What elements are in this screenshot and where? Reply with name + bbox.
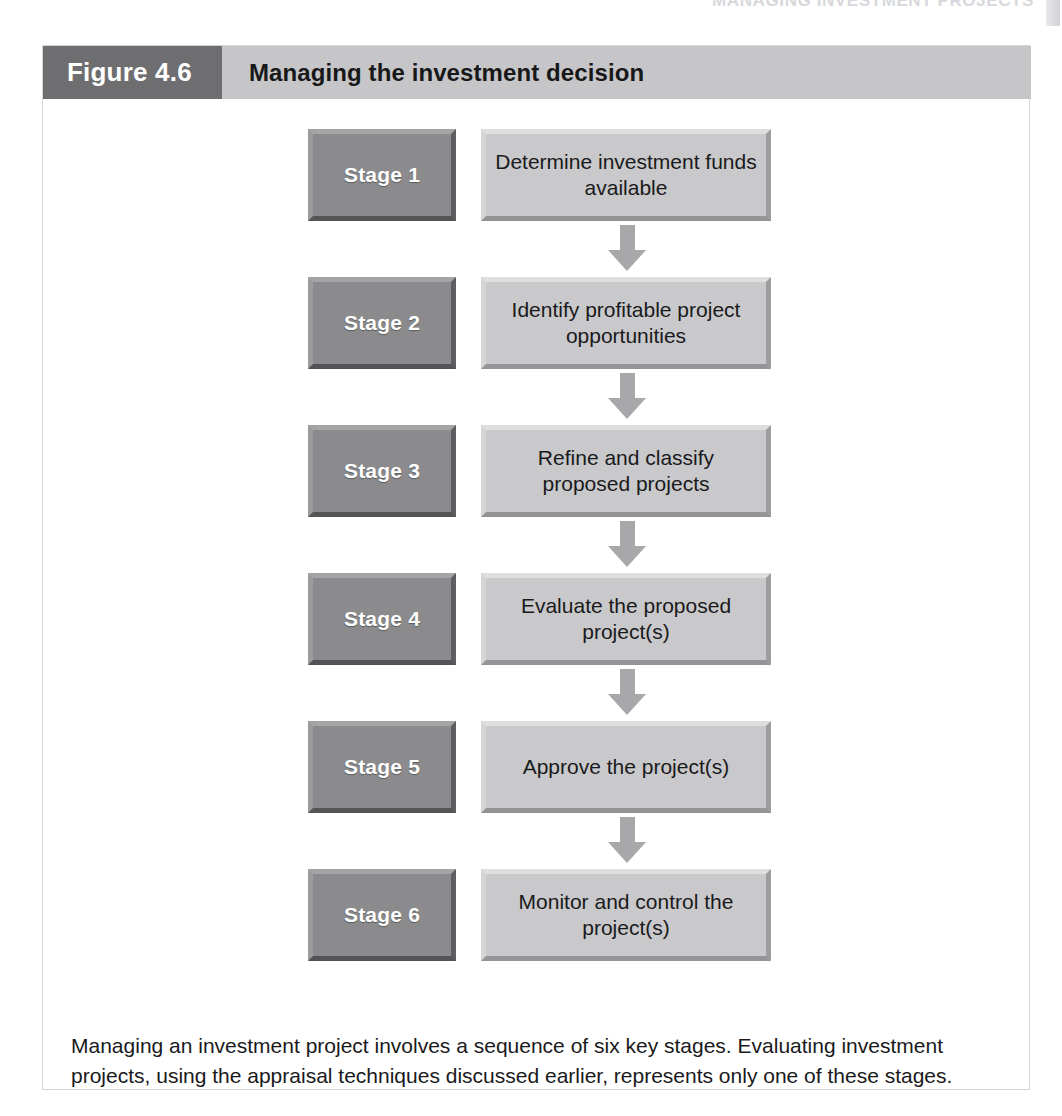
flow-arrow-icon (608, 817, 646, 863)
arrow-shaft (620, 373, 635, 400)
arrow-head (608, 250, 646, 271)
stage-label-text: Stage 2 (344, 311, 420, 335)
stage-label-text: Stage 5 (344, 755, 420, 779)
stage-label-box: Stage 1 (308, 129, 456, 221)
flow-arrow-icon (608, 521, 646, 567)
stage-label-text: Stage 4 (344, 607, 420, 631)
flow-stage-row: Stage 1 Determine investment funds avail… (43, 129, 1031, 227)
stage-label-box: Stage 6 (308, 869, 456, 961)
stage-content-box: Evaluate the proposed project(s) (481, 573, 771, 665)
stage-label-text: Stage 1 (344, 163, 420, 187)
flow-arrow-icon (608, 373, 646, 419)
stage-description-text: Refine and classify proposed projects (486, 445, 766, 496)
stage-description-text: Evaluate the proposed project(s) (486, 593, 766, 644)
arrow-head (608, 398, 646, 419)
arrow-head (608, 694, 646, 715)
stage-content-box: Refine and classify proposed projects (481, 425, 771, 517)
flow-stage-row: Stage 3 Refine and classify proposed pro… (43, 425, 1031, 523)
flow-stage-row: Stage 4 Evaluate the proposed project(s) (43, 573, 1031, 671)
flow-stage-row: Stage 6 Monitor and control the project(… (43, 869, 1031, 967)
flow-stage-row: Stage 5 Approve the project(s) (43, 721, 1031, 819)
stage-content-box: Monitor and control the project(s) (481, 869, 771, 961)
stage-description-text: Approve the project(s) (515, 754, 738, 780)
figure-title: Managing the investment decision (222, 46, 1031, 99)
stage-content-box: Approve the project(s) (481, 721, 771, 813)
stage-description-text: Determine investment funds available (486, 149, 766, 200)
flow-arrow-icon (608, 669, 646, 715)
figure-container: Figure 4.6 Managing the investment decis… (42, 45, 1030, 1090)
arrow-shaft (620, 225, 635, 252)
flow-arrow-icon (608, 225, 646, 271)
stage-label-text: Stage 6 (344, 903, 420, 927)
stage-description-text: Monitor and control the project(s) (486, 889, 766, 940)
flow-diagram: Stage 1 Determine investment funds avail… (43, 99, 1031, 1029)
stage-content-box: Identify profitable project opportunitie… (481, 277, 771, 369)
figure-title-bar: Figure 4.6 Managing the investment decis… (43, 46, 1031, 99)
arrow-head (608, 546, 646, 567)
arrow-shaft (620, 521, 635, 548)
arrow-shaft (620, 817, 635, 844)
running-page-header: MANAGING INVESTMENT PROJECTS (712, 0, 1034, 11)
flow-stage-row: Stage 2 Identify profitable project oppo… (43, 277, 1031, 375)
figure-number-label: Figure 4.6 (43, 46, 222, 99)
stage-label-text: Stage 3 (344, 459, 420, 483)
stage-label-box: Stage 3 (308, 425, 456, 517)
stage-content-box: Determine investment funds available (481, 129, 771, 221)
stage-label-box: Stage 4 (308, 573, 456, 665)
stage-label-box: Stage 5 (308, 721, 456, 813)
page-edge-tab (1046, 0, 1060, 26)
arrow-head (608, 842, 646, 863)
figure-caption: Managing an investment project involves … (43, 1031, 1031, 1091)
arrow-shaft (620, 669, 635, 696)
stage-label-box: Stage 2 (308, 277, 456, 369)
stage-description-text: Identify profitable project opportunitie… (486, 297, 766, 348)
